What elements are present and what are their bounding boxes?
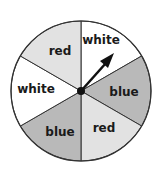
sector-label: blue: [45, 125, 74, 139]
sector-label: white: [82, 33, 120, 47]
spinner-pivot: [77, 87, 85, 95]
spinner-diagram: white blue red blue white red: [0, 0, 164, 179]
sector-label: red: [49, 44, 72, 58]
sector-label: blue: [109, 85, 138, 99]
sector-label: white: [17, 82, 55, 96]
sector-label: red: [93, 121, 116, 135]
